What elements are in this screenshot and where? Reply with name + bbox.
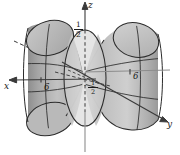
figure-hyperboloid-one-sheet: z x y 6 6 1 2 1 2 - (0, 0, 180, 155)
fraction-numerator: 1 (74, 21, 83, 29)
fraction-negative-denominator: 2 (88, 89, 98, 96)
fraction-negative-numerator: 1 (88, 80, 98, 87)
z-tick-one-half-fraction: 1 2 (74, 21, 83, 38)
right-lobe-outline-right (158, 34, 163, 120)
x-axis-label: x (4, 82, 9, 91)
x-axis-arrowhead (9, 77, 17, 83)
z-tick-negative-one-half-fraction: 1 2 (88, 80, 98, 95)
y-axis-label: y (167, 120, 172, 129)
z-axis-label: z (88, 1, 93, 10)
surface-svg (0, 0, 180, 155)
fraction-denominator: 2 (74, 31, 83, 39)
x-tick-6-label: 6 (44, 83, 49, 92)
z-negative-sign: - (84, 82, 86, 89)
y-tick-6-label: 6 (133, 72, 138, 81)
